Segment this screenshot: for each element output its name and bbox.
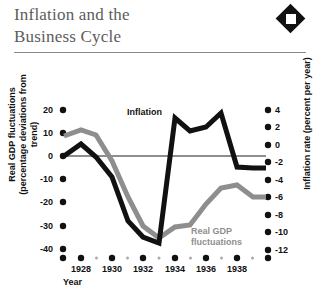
- x-tick-label-1934: 1934: [158, 264, 192, 274]
- right-tick-label-m2: -2: [275, 157, 301, 167]
- right-tick-label-4: 4: [275, 105, 301, 115]
- series-label-real-gdp: Real GDP fluctuations: [191, 226, 261, 248]
- left-axis-ticks: [60, 107, 66, 252]
- x-tick-label-1936: 1936: [189, 264, 223, 274]
- right-tick-label-0: 0: [275, 140, 301, 150]
- x-tick-label-1938: 1938: [220, 264, 254, 274]
- right-tick-label-2: 2: [275, 122, 301, 132]
- x-tick-label-1930: 1930: [95, 264, 129, 274]
- x-tick-label-1932: 1932: [126, 264, 160, 274]
- left-axis-title-line2: (percentage deviations from trend): [18, 65, 40, 205]
- right-tick-label-m4: -4: [275, 175, 301, 185]
- figure-page: Inflation and the Business Cycle: [0, 0, 314, 301]
- right-tick-label-m6: -6: [275, 192, 301, 202]
- x-axis-ticks-major: [60, 255, 271, 261]
- right-axis-ticks: [265, 107, 271, 253]
- right-axis-title: Inflation rate (percent per year): [302, 54, 313, 194]
- x-tick-label-1928: 1928: [64, 264, 98, 274]
- left-axis-title: Real GDP fluctuations (percentage deviat…: [7, 65, 40, 205]
- right-tick-label-m12: -12: [275, 245, 301, 255]
- series-label-inflation: Inflation: [127, 107, 162, 117]
- chart-area: 20 10 0 -10 -20 -30 -40 4 2 0 -2 -4 -6 -…: [0, 0, 314, 301]
- left-axis-title-line1: Real GDP fluctuations: [7, 65, 18, 205]
- x-axis-title: Year: [63, 277, 82, 287]
- series-label-real-gdp-line1: Real GDP: [191, 226, 261, 237]
- right-tick-label-m10: -10: [275, 227, 301, 237]
- left-tick-label-m30: -30: [27, 221, 53, 231]
- series-label-real-gdp-line2: fluctuations: [191, 237, 261, 248]
- left-tick-label-m40: -40: [27, 244, 53, 254]
- right-tick-label-m8: -8: [275, 210, 301, 220]
